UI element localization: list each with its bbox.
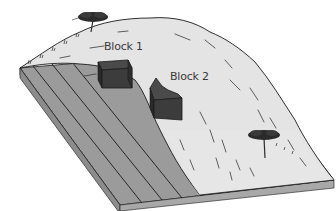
block-1-label: Block 1 — [104, 40, 143, 53]
block-diagram — [0, 0, 336, 211]
block-1 — [98, 60, 132, 88]
block-2-label: Block 2 — [170, 70, 209, 83]
